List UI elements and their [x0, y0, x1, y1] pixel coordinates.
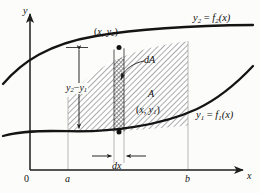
point-lower-dot	[117, 129, 122, 134]
point-label-upper-close: )	[115, 26, 118, 37]
curve-label-f1-y-sub: 1	[201, 114, 204, 121]
point-label-upper: (x, y2)	[94, 27, 118, 38]
A-label: A	[148, 89, 154, 99]
curve-label-f2: y2 = f2(x)	[193, 13, 230, 24]
curve-label-f1-arg: (x)	[222, 109, 234, 120]
height-label: y2−y1	[65, 83, 88, 94]
point-label-lower-close: )	[157, 104, 160, 115]
dA-label: dA	[144, 55, 155, 65]
origin-label: 0	[24, 174, 29, 184]
point-label-lower: (x, y1)	[136, 105, 160, 116]
y-axis-label: y	[23, 6, 27, 16]
point-upper-dot	[117, 45, 122, 50]
curve-label-f1-eq: =	[207, 109, 213, 120]
figure-canvas	[0, 0, 260, 193]
area-between-curves-figure: y x 0 a b y2 = f2(x) y1 = f1(x) (x, y2) …	[0, 0, 260, 193]
x-tick-label-a: a	[65, 174, 70, 184]
curve-label-f2-y-sub: 2	[198, 17, 201, 24]
dx-label: dx	[112, 161, 121, 171]
curve-label-f2-arg: (x)	[219, 12, 231, 23]
curve-label-f2-eq: =	[204, 12, 210, 23]
height-label-y1-sub: 1	[84, 86, 87, 93]
x-tick-label-b: b	[185, 174, 190, 184]
curve-label-f1: y1 = f1(x)	[196, 110, 233, 121]
x-axis-label: x	[247, 171, 251, 181]
